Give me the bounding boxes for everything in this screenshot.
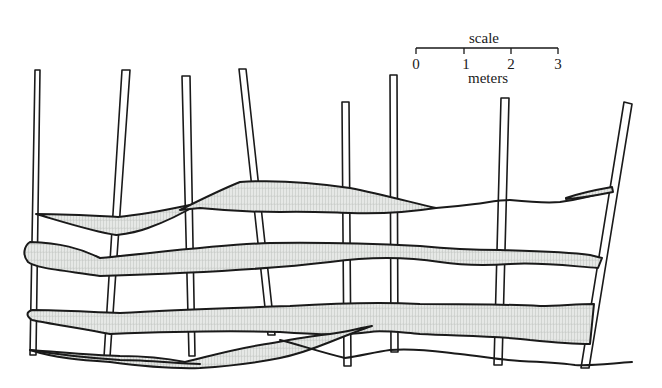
plank-stub-right xyxy=(566,187,613,199)
wall-diagram: scale 0 1 2 3 meters xyxy=(0,0,662,388)
scale-title: scale xyxy=(469,30,499,46)
scale-tick-3: 3 xyxy=(554,56,562,72)
scale-tick-2: 2 xyxy=(507,56,515,72)
scale-unit: meters xyxy=(468,70,508,86)
scale-bar: scale 0 1 2 3 meters xyxy=(412,30,562,86)
scale-ruler xyxy=(416,48,558,54)
scale-tick-0: 0 xyxy=(412,56,420,72)
